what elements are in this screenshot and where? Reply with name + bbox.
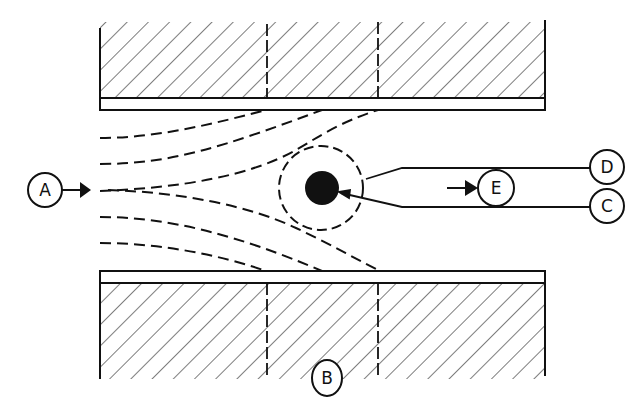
label-E: E xyxy=(491,178,502,198)
channel-line-D xyxy=(366,168,590,179)
label-D: D xyxy=(600,157,613,177)
bottom-plate-strip xyxy=(100,271,545,283)
particle xyxy=(279,146,363,230)
arrowhead-C xyxy=(339,190,350,198)
arrow-E-head xyxy=(465,180,478,196)
particle-core xyxy=(305,171,339,205)
streamline-2 xyxy=(100,110,322,164)
label-C-group: C xyxy=(590,189,624,223)
label-A-group: A xyxy=(28,173,91,207)
top-plate-strip xyxy=(100,98,545,110)
top-plate-hatching xyxy=(100,22,545,98)
label-B: B xyxy=(321,368,333,388)
label-D-group: D xyxy=(590,150,624,184)
streamline-1 xyxy=(100,110,266,138)
label-E-group: E xyxy=(447,170,514,206)
streamline-6 xyxy=(100,243,266,271)
label-A: A xyxy=(39,180,51,200)
arrow-A-head xyxy=(80,182,91,198)
label-B-group: B xyxy=(312,360,342,396)
top-plate xyxy=(100,20,545,110)
streamline-5 xyxy=(100,217,322,271)
streamline-4 xyxy=(108,190,380,271)
label-C: C xyxy=(601,196,613,216)
flow-diagram: A E D C B xyxy=(0,0,643,418)
